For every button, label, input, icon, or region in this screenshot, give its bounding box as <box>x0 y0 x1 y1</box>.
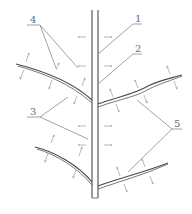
label-2: 2 <box>135 43 141 54</box>
label-1: 1 <box>135 13 141 24</box>
branch-lower-left <box>35 147 92 185</box>
label-5: 5 <box>174 118 180 129</box>
label-4: 4 <box>30 14 36 25</box>
branching-diagram: 1 2 3 4 5 <box>0 0 192 214</box>
leader-lines <box>27 24 182 172</box>
label-3: 3 <box>30 106 36 117</box>
main-stem <box>92 10 98 198</box>
branch-upper-left <box>16 64 92 103</box>
flow-arrows-horizontal <box>78 37 112 145</box>
